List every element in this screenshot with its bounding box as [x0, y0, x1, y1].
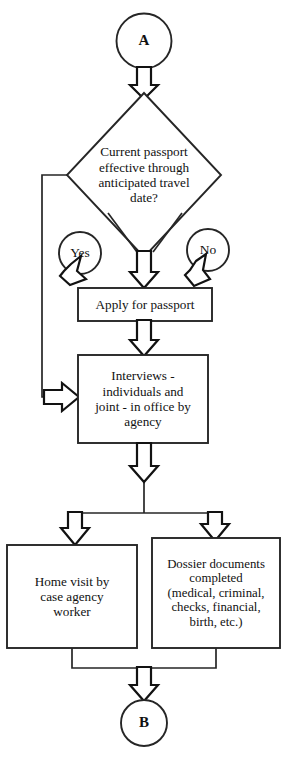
interviews-shape — [78, 355, 208, 443]
dossier-shape — [152, 538, 280, 648]
arrow-interviews-down — [130, 443, 158, 482]
arrow-apply-to-interviews — [130, 320, 158, 356]
end-terminal-shape — [121, 700, 167, 746]
apply-passport-shape — [78, 288, 212, 321]
arrow-split-to-dossier — [201, 512, 229, 541]
arrow-split-to-home-visit — [61, 512, 89, 545]
connector-yes-loop-line — [42, 175, 67, 397]
connector-dossier-merge — [144, 648, 216, 668]
start-terminal-shape — [117, 14, 172, 69]
connector-home-visit-merge — [72, 648, 144, 668]
arrow-yes-into-interviews — [44, 383, 79, 411]
flowchart-graphics: .shape { fill:#ffffff; stroke:#262626; s… — [0, 0, 285, 764]
home-visit-shape — [7, 545, 137, 648]
branch-yes-shape — [59, 232, 101, 274]
flowchart-canvas: .shape { fill:#ffffff; stroke:#262626; s… — [0, 0, 285, 764]
arrow-merge-to-b — [130, 667, 158, 701]
arrow-decision-to-apply — [130, 251, 158, 288]
